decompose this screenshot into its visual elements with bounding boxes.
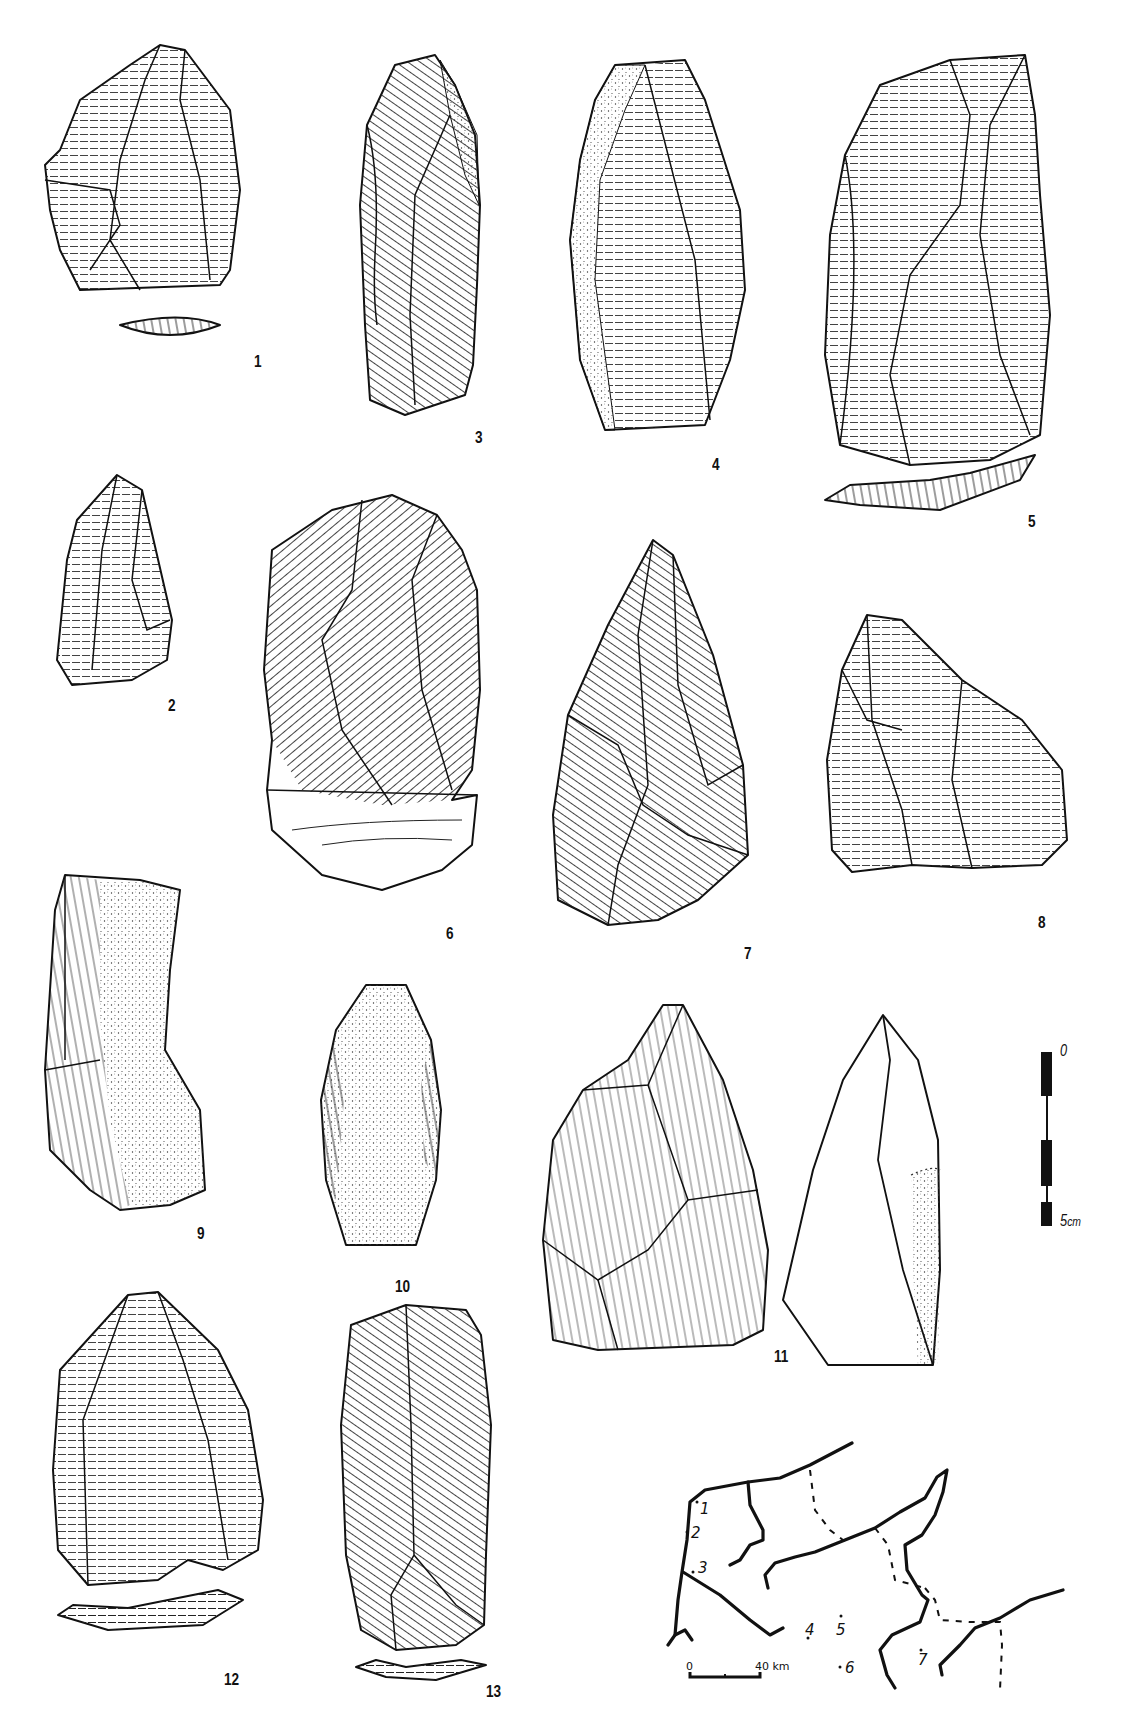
artifact-3-label: 3: [475, 428, 483, 448]
artifact-7-label: 7: [744, 944, 752, 964]
artifact-plate: 1 3 4 5: [0, 0, 1136, 1719]
scale-bar-top-label: 0: [1060, 1042, 1067, 1060]
artifact-12-label: 12: [224, 1670, 239, 1690]
map-site-6: 6: [845, 1659, 855, 1677]
map-site-5: 5: [836, 1621, 846, 1639]
map-site-3: 3: [698, 1559, 708, 1577]
artifact-1-drawing: [40, 40, 270, 350]
map-site-1: 1: [700, 1500, 710, 1518]
artifact-2-drawing: [52, 470, 182, 690]
artifact-10-label: 10: [395, 1277, 410, 1297]
artifact-5-label: 5: [1028, 512, 1036, 532]
artifact-7-drawing: [548, 535, 753, 935]
map-scale-bar: 0 40 km: [686, 1660, 790, 1677]
map-site-7: 7: [918, 1651, 928, 1669]
map-scale-end: 40 km: [755, 1660, 790, 1673]
artifact-8-drawing: [822, 610, 1072, 880]
artifact-6-label: 6: [446, 924, 454, 944]
artifact-2-label: 2: [168, 696, 176, 716]
artifact-4-label: 4: [712, 455, 720, 475]
map-scale-start: 0: [686, 1660, 693, 1673]
artifact-13-drawing: [336, 1305, 511, 1680]
artifact-11-drawing: [538, 990, 958, 1380]
artifact-13-label: 13: [486, 1682, 501, 1702]
artifact-8-label: 8: [1038, 913, 1046, 933]
map-site-4: 4: [805, 1621, 815, 1639]
location-map: 1 2 3 4 5 6 7 0 40 km: [660, 1400, 1110, 1710]
artifact-4-drawing: [565, 60, 755, 432]
scale-bar-cm: [1035, 1050, 1055, 1230]
scale-bar-bottom-value: 5: [1060, 1212, 1067, 1229]
artifact-3-drawing: [355, 55, 490, 425]
artifact-10-drawing: [316, 980, 446, 1250]
artifact-5-drawing: [820, 55, 1060, 525]
map-site-2: 2: [691, 1524, 701, 1542]
artifact-12-drawing: [48, 1290, 273, 1630]
artifact-9-label: 9: [197, 1224, 205, 1244]
artifact-11-label: 11: [774, 1347, 788, 1367]
scale-bar-bottom-label: 5cm: [1060, 1212, 1081, 1230]
scale-bar-unit: cm: [1067, 1214, 1081, 1229]
artifact-6-drawing: [262, 490, 502, 890]
artifact-9-drawing: [40, 870, 215, 1210]
artifact-1-label: 1: [254, 352, 262, 372]
